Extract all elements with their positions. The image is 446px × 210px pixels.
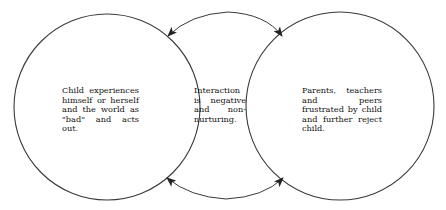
- child-node-text: Child experiences himself or herself and…: [62, 86, 139, 134]
- top-arrow-icon-right: [228, 12, 282, 36]
- bottom-arrow-icon-right: [226, 178, 283, 199]
- cycle-diagram: Child experiences himself or herself and…: [0, 0, 446, 210]
- interaction-node-text: Interaction is negative and non-nurturin…: [194, 86, 246, 124]
- top-arrow-icon: [168, 12, 228, 36]
- bottom-arrow-icon: [167, 178, 226, 199]
- adults-node-text: Parents, teachers and peers frustrated b…: [302, 86, 382, 134]
